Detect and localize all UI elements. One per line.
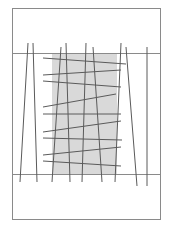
vertical-line — [20, 43, 28, 182]
line-diagram — [0, 0, 172, 235]
vertical-line — [126, 47, 137, 186]
vertical-line — [33, 43, 37, 182]
diagram-canvas — [0, 0, 172, 235]
